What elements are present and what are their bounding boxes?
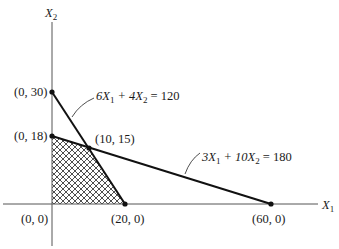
leader-line-2	[185, 153, 200, 174]
label-point-10-15: (10, 15)	[95, 132, 135, 146]
label-point-0-18: (0, 18)	[14, 129, 47, 143]
point-20-0	[122, 201, 127, 206]
constraint-label-1: 6X1 + 4X2 = 120	[96, 89, 180, 105]
leader-line-1	[72, 98, 94, 117]
label-point-0-30: (0, 30)	[14, 85, 47, 99]
point-60-0	[268, 201, 273, 206]
constraint-label-2: 3X1 + 10X2 = 180	[201, 150, 292, 166]
label-point-0-0: (0, 0)	[21, 212, 48, 226]
point-0-18	[49, 133, 54, 138]
point-0-30	[49, 89, 54, 94]
x-axis-label: X1	[321, 198, 334, 214]
lp-diagram: X2 X1 (0, 30) (0, 18) (10, 15) (0, 0) (2…	[0, 0, 339, 249]
y-axis-label: X2	[44, 6, 57, 22]
label-point-60-0: (60, 0)	[252, 212, 285, 226]
point-10-15	[86, 145, 91, 150]
label-point-20-0: (20, 0)	[111, 212, 144, 226]
